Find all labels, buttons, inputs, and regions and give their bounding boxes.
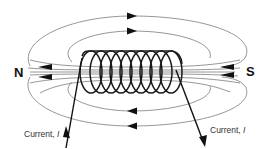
south-pole-label: S: [246, 64, 255, 79]
field-arrow-left-icon: [127, 123, 137, 130]
current-symbol-left: I: [57, 129, 60, 139]
lead-wires: [63, 58, 207, 148]
current-label-right-text: Current,: [210, 125, 243, 135]
field-arrow-right-icon: [127, 28, 137, 35]
north-pole-label: N: [14, 65, 23, 80]
field-arrows-bottom: [127, 108, 137, 130]
field-lines-top: [28, 16, 247, 67]
axial-line: [30, 74, 238, 76]
current-arrow-down-icon: [199, 135, 207, 147]
current-symbol-right: I: [243, 125, 246, 135]
current-label-left-text: Current,: [24, 129, 57, 139]
outer-field-loop-top: [28, 16, 247, 67]
solenoid-field-diagram: N S Current, I Current, I: [0, 0, 263, 149]
axial-line: [28, 68, 240, 70]
outer-field-loop-bottom: [28, 77, 247, 126]
current-label-left: Current, I: [24, 129, 60, 139]
field-arrow-right-icon: [127, 13, 137, 20]
field-lines-bottom: [28, 77, 247, 126]
south-pole-arrows: [220, 64, 234, 78]
axial-line: [30, 60, 240, 67]
field-arrow-left-icon: [127, 108, 137, 115]
current-label-right: Current, I: [210, 125, 246, 135]
field-arrows-top: [127, 13, 137, 35]
right-lead-wire: [176, 70, 203, 141]
